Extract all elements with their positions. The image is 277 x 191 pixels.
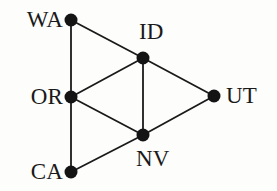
graph-node-ut[interactable] — [208, 90, 221, 103]
graph-node-label-nv: NV — [136, 147, 170, 170]
graph-node-label-ca: CA — [31, 160, 63, 183]
graph-node-ca[interactable] — [65, 166, 78, 179]
graph-edge-or-nv — [71, 97, 143, 135]
graph-node-wa[interactable] — [65, 14, 78, 27]
graph-node-label-or: OR — [31, 85, 63, 108]
graph-edge-wa-id — [71, 20, 143, 58]
graph-node-id[interactable] — [137, 52, 150, 65]
graph-node-label-wa: WA — [27, 8, 63, 31]
graph-figure: WAORCAIDNVUT — [0, 0, 277, 191]
graph-node-label-ut: UT — [226, 84, 257, 107]
graph-node-or[interactable] — [65, 91, 78, 104]
graph-node-nv[interactable] — [137, 129, 150, 142]
graph-edge-ca-nv — [71, 135, 143, 172]
graph-edge-id-ut — [143, 58, 214, 96]
graph-edge-nv-ut — [143, 96, 214, 135]
graph-node-label-id: ID — [139, 20, 164, 43]
graph-edge-or-id — [71, 58, 143, 97]
